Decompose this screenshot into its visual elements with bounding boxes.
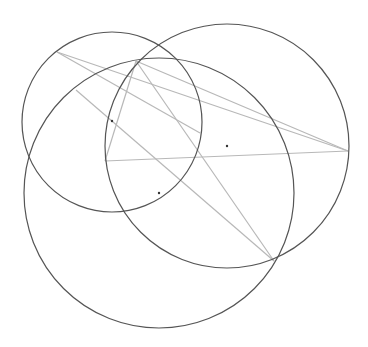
segment-4 xyxy=(136,61,274,261)
geometry-diagram xyxy=(0,0,368,347)
center-lower xyxy=(158,192,160,194)
segment-2 xyxy=(105,151,348,161)
center-upper-left xyxy=(111,120,113,122)
segments-group xyxy=(57,52,348,261)
segment-0 xyxy=(57,52,348,151)
circles-group xyxy=(22,24,349,328)
center-right xyxy=(226,145,228,147)
segment-1 xyxy=(136,61,348,151)
